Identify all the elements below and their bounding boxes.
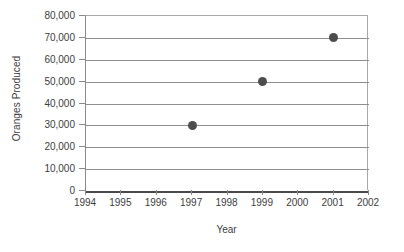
y-axis-tick (79, 168, 85, 169)
gridline (86, 38, 369, 39)
x-axis-tick (333, 190, 334, 195)
gridline (86, 104, 369, 105)
x-axis-tick (120, 190, 121, 195)
y-axis-tick-label: 20,000 (5, 141, 75, 152)
x-axis-tick (191, 190, 192, 195)
data-point (258, 77, 267, 86)
x-axis-title: Year (85, 224, 368, 235)
y-axis-tick (79, 37, 85, 38)
y-axis-tick (79, 81, 85, 82)
x-axis-tick (297, 190, 298, 195)
x-axis-tick (227, 190, 228, 195)
y-axis-tick-label: 10,000 (5, 163, 75, 174)
y-axis-tick-label: 40,000 (5, 97, 75, 108)
x-axis-tick (368, 190, 369, 195)
y-axis-tick-label: 50,000 (5, 75, 75, 86)
gridline (86, 82, 369, 83)
y-axis-tick (79, 15, 85, 16)
y-axis-tick-label: 60,000 (5, 53, 75, 64)
plot-area (85, 15, 368, 190)
scatter-chart: Oranges Produced Year 80,00070,00060,000… (0, 0, 404, 252)
gridline (86, 191, 369, 193)
y-axis-tick-label: 30,000 (5, 119, 75, 130)
x-axis-tick (85, 190, 86, 195)
x-axis-tick (262, 190, 263, 195)
y-axis-tick (79, 124, 85, 125)
y-axis-tick (79, 59, 85, 60)
x-axis-tick (156, 190, 157, 195)
y-axis-tick (79, 103, 85, 104)
y-axis-tick-label: 0 (5, 185, 75, 196)
data-point (329, 33, 338, 42)
gridline (86, 125, 369, 126)
gridline (86, 147, 369, 148)
y-axis-tick-label: 70,000 (5, 31, 75, 42)
gridline (86, 60, 369, 61)
y-axis-tick (79, 146, 85, 147)
x-axis-tick-label: 2002 (345, 197, 391, 208)
data-point (188, 121, 197, 130)
y-axis-tick-label: 80,000 (5, 10, 75, 21)
gridline (86, 169, 369, 170)
